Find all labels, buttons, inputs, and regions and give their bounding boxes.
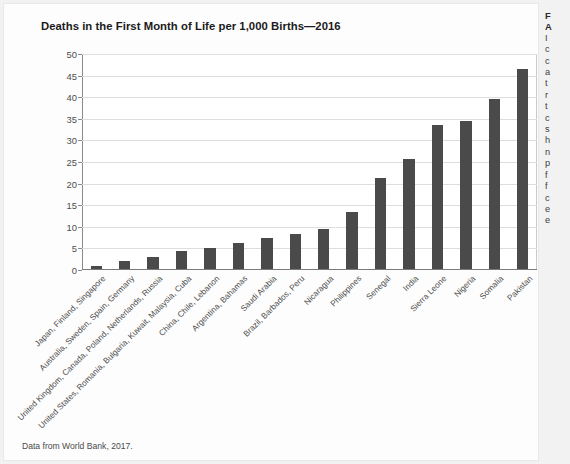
bar bbox=[432, 125, 443, 270]
side-column-line: c bbox=[545, 113, 570, 124]
source-note: Data from World Bank, 2017. bbox=[22, 441, 133, 451]
y-tick-label: 45 bbox=[67, 70, 77, 81]
x-tick-label: India bbox=[401, 274, 420, 293]
y-tick-label: 10 bbox=[67, 221, 77, 232]
side-column-line: c bbox=[545, 44, 570, 55]
x-tick-label: Pakistan bbox=[505, 274, 534, 303]
side-column-line: h bbox=[545, 135, 570, 146]
bar bbox=[290, 234, 301, 270]
bar bbox=[489, 99, 500, 271]
side-column-line: s bbox=[545, 124, 570, 135]
y-tick-label: 35 bbox=[67, 113, 77, 124]
y-tick-label: 15 bbox=[67, 200, 77, 211]
side-column-heading: A bbox=[545, 21, 570, 32]
side-column-line: e bbox=[545, 204, 570, 215]
side-column-line: t bbox=[545, 78, 570, 89]
bar bbox=[460, 121, 471, 270]
side-column-line: r bbox=[545, 90, 570, 101]
bar bbox=[318, 229, 329, 270]
x-tick-label: Nigeria bbox=[452, 274, 477, 299]
y-tick-label: 25 bbox=[67, 157, 77, 168]
bar bbox=[204, 248, 215, 270]
side-column-line: I bbox=[545, 33, 570, 44]
y-tick-label: 20 bbox=[67, 178, 77, 189]
x-tick-label: Somalia bbox=[478, 274, 505, 301]
y-tick-label: 50 bbox=[67, 49, 77, 60]
bar bbox=[346, 212, 357, 270]
side-text-column: FAIccatrtcshnpffceevrii bbox=[545, 10, 570, 225]
bar bbox=[176, 251, 187, 270]
side-column-line: e bbox=[545, 215, 570, 225]
y-tick-label: 5 bbox=[72, 243, 77, 254]
bar-series bbox=[82, 54, 537, 270]
figure-panel: Deaths in the First Month of Life per 1,… bbox=[4, 4, 538, 460]
bar bbox=[233, 243, 244, 270]
chart-plot-area: 05101520253035404550 bbox=[82, 54, 537, 270]
page-title: Deaths in the First Month of Life per 1,… bbox=[41, 20, 341, 32]
y-tick-label: 40 bbox=[67, 92, 77, 103]
side-column-heading: F bbox=[545, 10, 570, 21]
side-column-line: a bbox=[545, 67, 570, 78]
x-tick-label: Senegal bbox=[364, 274, 392, 302]
bar bbox=[517, 69, 528, 270]
side-column-line: p bbox=[545, 158, 570, 169]
bar bbox=[261, 238, 272, 270]
bar bbox=[403, 159, 414, 270]
y-tick-label: 30 bbox=[67, 135, 77, 146]
side-column-line: f bbox=[545, 170, 570, 181]
bar bbox=[375, 178, 386, 270]
side-column-line: n bbox=[545, 147, 570, 158]
y-tick-label: 0 bbox=[72, 265, 77, 276]
x-axis-line bbox=[82, 269, 537, 270]
y-tick-mark bbox=[78, 270, 82, 271]
side-column-line: f bbox=[545, 181, 570, 192]
bar bbox=[147, 257, 158, 270]
side-column-line: t bbox=[545, 101, 570, 112]
figure-page: Deaths in the First Month of Life per 1,… bbox=[0, 0, 570, 464]
side-column-line: c bbox=[545, 56, 570, 67]
side-column-line: c bbox=[545, 193, 570, 204]
